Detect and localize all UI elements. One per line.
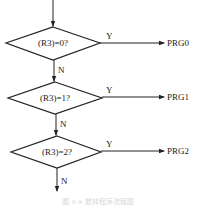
yes-label: Y [106, 85, 113, 95]
decision-r3-0: (R3)=0? Y PRG0 N [6, 27, 190, 81]
decision-r3-1: (R3)=1? Y PRG1 N [8, 82, 189, 135]
yes-label: Y [106, 139, 113, 149]
flowchart: (R3)=0? Y PRG0 N (R3)=1? Y PRG1 N (R3)=2… [0, 0, 197, 207]
target-label: PRG0 [167, 38, 190, 48]
decision-condition: (R3)=1? [40, 93, 70, 103]
figure-caption: 图 x-x 散转程序流程图 [62, 197, 133, 206]
decision-r3-2: (R3)=2? Y PRG2 N [11, 136, 189, 191]
decision-condition: (R3)=2? [42, 147, 72, 157]
no-label: N [61, 176, 68, 186]
decision-condition: (R3)=0? [38, 38, 68, 48]
target-label: PRG1 [167, 92, 189, 102]
yes-label: Y [106, 31, 113, 41]
no-label: N [58, 65, 65, 75]
no-label: N [60, 119, 67, 129]
target-label: PRG2 [167, 146, 189, 156]
